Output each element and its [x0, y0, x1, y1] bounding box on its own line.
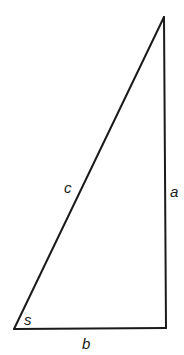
side-a-vertical — [164, 17, 166, 328]
side-b-base — [14, 328, 166, 329]
label-s: s — [24, 311, 32, 328]
label-a: a — [170, 183, 178, 200]
side-c-hypotenuse — [14, 17, 164, 329]
label-b: b — [82, 335, 90, 352]
label-c: c — [64, 179, 72, 196]
right-triangle-diagram: c a s b — [0, 0, 184, 355]
